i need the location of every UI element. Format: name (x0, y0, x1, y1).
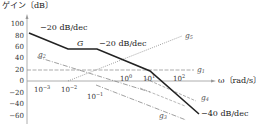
x-axis-arrow-icon (211, 80, 216, 83)
y-tick-0: 0 (2, 78, 24, 85)
line-g3-lower (140, 88, 185, 106)
x-tick-1e-1: 10−1 (87, 92, 103, 101)
y-axis-arrow-icon (26, 14, 29, 19)
x-tick-1e2: 102 (173, 74, 185, 83)
x-tick-1e-2: 10−2 (61, 85, 77, 94)
y-tick-neg40: −40 (2, 101, 24, 108)
y-tick-20: 20 (2, 67, 24, 74)
y-tick-60: 60 (2, 44, 24, 51)
y-tick-80: 80 (2, 33, 24, 40)
x-tick-1e0: 100 (120, 74, 132, 83)
y-tick-neg60: −60 (2, 113, 24, 120)
line-g2 (37, 57, 150, 92)
x-tick-1e1: 101 (143, 74, 155, 83)
y-axis-title: ゲイン〔dB〕 (2, 2, 53, 10)
slope-left-label: −20 dB/dec (40, 24, 87, 32)
g5-label: g5 (185, 32, 193, 40)
bode-plot (0, 0, 268, 126)
y-tick-neg20: −20 (2, 90, 24, 97)
g3-label: g3 (159, 112, 167, 120)
y-tick-100: 100 (2, 21, 24, 28)
slope-right-label: −40 dB/dec (201, 110, 248, 118)
curve-G-label: G (77, 40, 83, 48)
g4-label: g4 (201, 94, 209, 102)
x-tick-1e-3: 10−3 (34, 85, 50, 94)
y-tick-40: 40 (2, 55, 24, 62)
g1-label: g1 (197, 66, 205, 74)
g2-label: g2 (38, 51, 46, 59)
slope-mid-label: −20 dB/dec (99, 40, 146, 48)
x-axis-label: ω〔rad/s〕 (218, 77, 261, 85)
